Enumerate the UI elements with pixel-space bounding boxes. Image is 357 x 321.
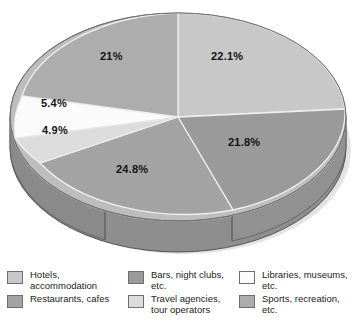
legend-swatch-sports [239, 295, 255, 308]
legend-item-hotels[interactable]: Hotels, accommodation [7, 270, 125, 291]
legend-swatch-bars [128, 271, 144, 284]
legend-swatch-hotels [7, 271, 23, 284]
slice-label-libraries: 5.4% [41, 97, 67, 109]
legend-item-restaurants[interactable]: Restaurants, cafes [7, 294, 109, 308]
slice-label-sports: 21% [100, 50, 123, 62]
legend-item-sports[interactable]: Sports, recreation, etc. [239, 294, 357, 315]
pie-chart-figure: 22.1% 21.8% 24.8% 4.9% 5.4% 21% [0, 0, 357, 262]
legend-label-hotels: Hotels, accommodation [30, 270, 125, 291]
legend-swatch-libraries [239, 271, 255, 284]
slice-label-bars: 21.8% [228, 136, 260, 148]
legend-item-libraries[interactable]: Libraries, museums, etc. [239, 270, 357, 291]
legend-label-restaurants: Restaurants, cafes [30, 294, 109, 305]
legend-item-bars[interactable]: Bars, night clubs, etc. [128, 270, 236, 291]
slice-label-hotels: 22.1% [211, 50, 243, 62]
slice-label-travel: 4.9% [42, 124, 68, 136]
legend-label-bars: Bars, night clubs, etc. [151, 270, 236, 291]
legend-item-travel[interactable]: Travel agencies, tour operators [128, 294, 236, 315]
legend-swatch-travel [128, 295, 144, 308]
chart-legend: Hotels, accommodation Restaurants, cafes… [0, 262, 357, 321]
legend-swatch-restaurants [7, 295, 23, 308]
pie-top-face [10, 13, 346, 221]
legend-column-3: Libraries, museums, etc. Sports, recreat… [239, 262, 357, 321]
slice-label-restaurants: 24.8% [116, 163, 148, 175]
legend-label-sports: Sports, recreation, etc. [262, 294, 357, 315]
legend-label-libraries: Libraries, museums, etc. [262, 270, 357, 291]
legend-column-2: Bars, night clubs, etc. Travel agencies,… [128, 262, 236, 321]
legend-column-1: Hotels, accommodation Restaurants, cafes [7, 262, 125, 321]
slice-hotels[interactable] [178, 13, 345, 117]
legend-label-travel: Travel agencies, tour operators [151, 294, 236, 315]
